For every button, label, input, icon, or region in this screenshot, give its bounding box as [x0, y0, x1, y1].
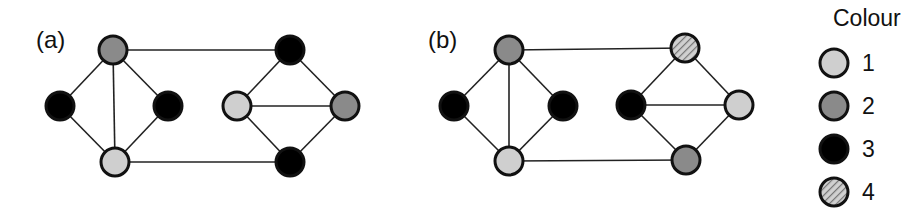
graph-node-colour-3 [154, 92, 182, 120]
legend-title: Colour [833, 5, 901, 31]
graph-node-colour-2 [99, 36, 127, 64]
panel-a: (a) [36, 26, 359, 176]
panel-b-edges [454, 48, 739, 161]
panel-a-edges [60, 50, 345, 162]
legend-swatch-4-icon [820, 178, 848, 206]
graph-node-colour-3 [276, 148, 304, 176]
graph-node-colour-3 [276, 36, 304, 64]
graph-node-colour-1 [101, 148, 129, 176]
graph-node-colour-1 [725, 91, 753, 119]
graph-node-colour-3 [617, 91, 645, 119]
panel-b: (b) [428, 26, 753, 175]
graph-node-colour-4 [671, 34, 699, 62]
legend-label-1: 1 [862, 50, 875, 76]
graph-node-colour-1 [223, 92, 251, 120]
graph-edge [113, 50, 115, 162]
panel-b-label: (b) [428, 26, 457, 53]
legend-swatch-2-icon [820, 92, 848, 120]
legend-swatch-3-icon [820, 135, 848, 163]
graph-node-colour-3 [46, 92, 74, 120]
graph-node-colour-1 [495, 147, 523, 175]
panel-a-label: (a) [36, 26, 65, 53]
graph-node-colour-2 [672, 146, 700, 174]
graph-node-colour-3 [440, 92, 468, 120]
graph-edge [509, 160, 686, 161]
legend-label-2: 2 [862, 93, 875, 119]
legend-swatch-1-icon [820, 49, 848, 77]
graph-node-colour-3 [549, 92, 577, 120]
legend-label-3: 3 [862, 136, 875, 162]
graph-node-colour-2 [331, 92, 359, 120]
graph-edge [509, 48, 685, 50]
graph-node-colour-2 [495, 36, 523, 64]
colour-legend: Colour 1234 [820, 5, 901, 206]
legend-label-4: 4 [862, 179, 875, 205]
graph-coloring-diagram: (a) (b) Colour 1234 [0, 0, 917, 213]
legend-items: 1234 [820, 49, 875, 206]
